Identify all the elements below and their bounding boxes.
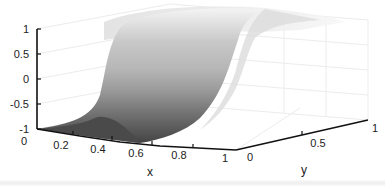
y-tick-label: 1	[372, 122, 378, 134]
surface	[37, 7, 345, 143]
z-tick-label: -1	[19, 123, 29, 135]
y-axis-label: y	[301, 163, 307, 177]
surface-plot: 1 0.5 0 -0.5 -1 0 0.2 0.4 0.6 0.8 1 0 0.…	[0, 0, 385, 190]
x-tick-label: 0.6	[128, 147, 143, 159]
x-tick-label: 0.8	[171, 149, 186, 161]
z-tick-labels: 1 0.5 0 -0.5 -1	[10, 23, 29, 135]
x-tick-label: 0.2	[53, 139, 68, 151]
z-tick-label: 1	[23, 23, 29, 35]
y-tick-label: 0	[247, 151, 253, 163]
z-tick-label: 0	[23, 73, 29, 85]
y-tick-label: 0.5	[310, 137, 325, 149]
x-tick-label: 1	[222, 152, 228, 164]
x-axis-label: x	[147, 165, 153, 179]
z-tick-label: 0.5	[14, 48, 29, 60]
x-tick-label: 0.4	[90, 143, 105, 155]
z-tick-label: -0.5	[10, 98, 29, 110]
x-tick-label: 0	[21, 135, 27, 147]
bottom-band	[0, 180, 385, 186]
